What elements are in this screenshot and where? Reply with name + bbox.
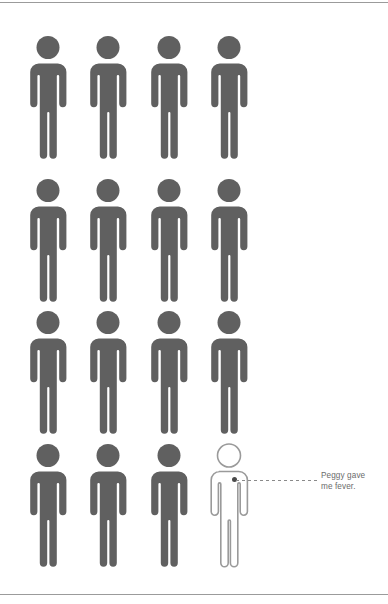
person-figure-r2c1	[25, 175, 71, 313]
person-figure-r2c4	[206, 175, 252, 313]
bottom-divider-rule	[0, 594, 388, 595]
person-figure-r2c3	[146, 175, 192, 313]
callout-label: Peggy gave me fever.	[321, 471, 385, 492]
person-figure-r3c2	[85, 307, 131, 445]
person-figure-r1c3	[146, 32, 192, 170]
person-figure-r4c3	[146, 440, 192, 578]
callout-label-line-1: Peggy gave	[321, 471, 385, 482]
person-figure-r4c4	[206, 440, 252, 578]
person-figure-r3c3	[146, 307, 192, 445]
person-figure-r1c1	[25, 32, 71, 170]
callout-dashed-leader-line	[236, 480, 318, 481]
person-figure-r3c4	[206, 307, 252, 445]
person-figure-r2c2	[85, 175, 131, 313]
pictogram-grid	[0, 0, 388, 594]
person-figure-r1c2	[85, 32, 131, 170]
person-figure-r3c1	[25, 307, 71, 445]
pictogram-page: Peggy gave me fever.	[0, 0, 388, 604]
person-figure-r1c4	[206, 32, 252, 170]
person-figure-r4c1	[25, 440, 71, 578]
callout-label-line-2: me fever.	[321, 482, 385, 493]
person-figure-r4c2	[85, 440, 131, 578]
